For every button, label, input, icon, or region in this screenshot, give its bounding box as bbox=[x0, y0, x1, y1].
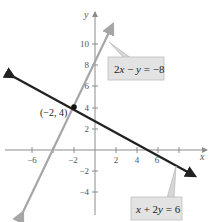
equation-label-1: 2x − y = −8 bbox=[114, 63, 165, 75]
y-tick-label: −2 bbox=[79, 166, 89, 176]
x-axis: −6 −2 2 4 6 x bbox=[5, 147, 207, 165]
y-axis: 10 8 6 4 2 −2 −4 y bbox=[79, 9, 98, 215]
line-2x-minus-y-eq-neg8 bbox=[23, 24, 113, 212]
y-axis-label: y bbox=[83, 9, 89, 20]
x-tick-label: 2 bbox=[114, 155, 119, 165]
line-x-plus-2y-eq-6 bbox=[14, 77, 195, 176]
y-tick-label: 4 bbox=[85, 103, 90, 113]
callout-equation-1: 2x − y = −8 bbox=[108, 42, 165, 80]
x-tick-label: 4 bbox=[135, 155, 140, 165]
x-tick-label: −2 bbox=[68, 155, 78, 165]
intersection-label: (−2, 4) bbox=[40, 107, 67, 119]
x-axis-label: x bbox=[199, 151, 205, 162]
y-tick-label: −4 bbox=[79, 187, 89, 197]
x-tick-label: −6 bbox=[27, 155, 37, 165]
callout-equation-2: x + 2y = 6 bbox=[131, 166, 182, 220]
y-tick-label: 8 bbox=[85, 60, 90, 70]
chart: −6 −2 2 4 6 x 10 8 6 4 2 −2 −4 y (−2, 4) bbox=[0, 0, 215, 222]
y-tick-label: 2 bbox=[85, 124, 90, 134]
equation-label-2: x + 2y = 6 bbox=[135, 203, 181, 215]
y-tick-label: 10 bbox=[80, 39, 90, 49]
